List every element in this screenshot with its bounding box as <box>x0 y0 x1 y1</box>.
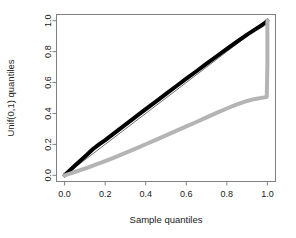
y-tick-label: 0.4 <box>43 107 53 120</box>
y-tick-label: 0.0 <box>43 169 53 182</box>
x-tick-label: 0.2 <box>99 189 112 199</box>
x-tick-label: 0.0 <box>58 189 71 199</box>
y-tick-label: 0.2 <box>43 138 53 151</box>
x-axis-label: Sample quantiles <box>130 214 203 225</box>
y-tick-label: 1.0 <box>43 14 53 27</box>
x-tick-label: 0.6 <box>180 189 193 199</box>
x-tick-label: 0.8 <box>221 189 234 199</box>
x-tick-label: 0.4 <box>139 189 152 199</box>
qq-plot-svg: 0.00.20.40.60.81.0 0.00.20.40.60.81.0 Sa… <box>0 0 296 238</box>
y-tick-label: 0.8 <box>43 45 53 58</box>
x-tick-label: 1.0 <box>261 189 274 199</box>
chart-figure: 0.00.20.40.60.81.0 0.00.20.40.60.81.0 Sa… <box>0 0 296 238</box>
y-axis-label: Unif(0,1) quantiles <box>5 59 16 136</box>
y-tick-label: 0.6 <box>43 76 53 89</box>
